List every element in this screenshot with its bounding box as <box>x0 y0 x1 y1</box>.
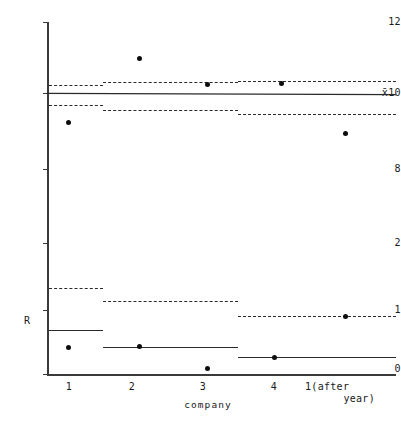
x-tick-label-1: 1 <box>54 381 84 392</box>
xbar-data-point-5 <box>343 131 348 136</box>
x-axis-spine <box>47 374 396 376</box>
r-ucl-segment-3 <box>238 316 396 317</box>
y-tick-label-12: 12 <box>359 17 401 27</box>
y-tickmark-8 <box>43 169 48 170</box>
r-ucl-segment-1 <box>49 288 103 289</box>
r-data-point-1 <box>66 345 71 350</box>
x-tick-label-after-year-line2: year) <box>305 393 377 405</box>
control-chart: 12 x̄10 8 2 1 0 R 1 2 3 4 1(after year) … <box>0 0 401 423</box>
xbar-lcl-segment-3 <box>238 114 396 115</box>
r-center-segment-3 <box>238 357 396 358</box>
xbar-lcl-segment-1 <box>49 105 103 106</box>
xbar-ucl-segment-1 <box>49 85 103 86</box>
x-tick-label-3: 3 <box>188 381 218 392</box>
r-ucl-segment-2 <box>103 301 238 302</box>
x-tick-label-2: 2 <box>117 381 147 392</box>
xbar-ucl-segment-3 <box>238 81 396 82</box>
x-tick-label-after-year-line1: 1(after <box>305 381 349 392</box>
y-tickmark-12 <box>43 22 48 23</box>
r-data-point-4 <box>272 355 277 360</box>
y-tick-label-8: 8 <box>359 164 401 174</box>
y-tickmark-0 <box>43 374 48 375</box>
y-axis-label-r: R <box>24 315 30 326</box>
r-data-point-3 <box>205 366 210 371</box>
y-axis-spine <box>47 22 49 375</box>
r-center-segment-1 <box>49 330 103 331</box>
y-tickmark-1 <box>43 310 48 311</box>
r-data-point-2 <box>137 344 142 349</box>
xbar-lcl-segment-2 <box>103 110 238 111</box>
xbar-data-point-4 <box>279 81 284 86</box>
y-tick-label-1: 1 <box>359 305 401 315</box>
y-tickmark-2 <box>43 243 48 244</box>
r-data-point-5 <box>343 314 348 319</box>
xbar-data-point-3 <box>205 82 210 87</box>
x-tick-label-4: 4 <box>259 381 289 392</box>
xbar-data-point-1 <box>66 120 71 125</box>
x-tick-label-after-year: 1(after year) <box>305 381 377 405</box>
x-axis-title: company <box>163 399 253 410</box>
r-center-segment-2 <box>103 347 238 348</box>
y-tick-label-0: 0 <box>359 364 401 374</box>
xbar-data-point-2 <box>137 56 142 61</box>
xbar-ucl-segment-2 <box>103 82 238 83</box>
xbar-center-line <box>47 88 396 102</box>
y-tick-label-2: 2 <box>359 238 401 248</box>
